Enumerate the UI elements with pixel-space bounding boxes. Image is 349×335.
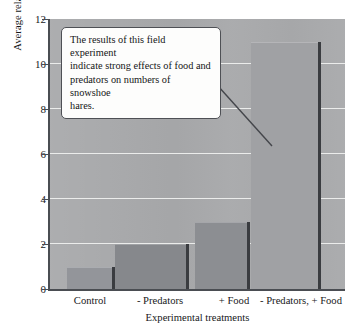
bar-minus-predators-plus-food — [251, 42, 318, 290]
x-axis-title: Experimental treatments — [48, 312, 347, 323]
bar-top-highlight — [115, 244, 186, 245]
bar-shadow-edge — [318, 42, 321, 290]
x-tick-label-minus-predators-plus-food: - Predators, + Food — [255, 294, 347, 308]
bar-chart-figure: Average relative hare density 12 10 8 6 … — [0, 0, 349, 335]
callout-line-1: The results of this field experiment — [70, 33, 213, 59]
x-axis-tick-labels: Control - Predators + Food - Predators, … — [48, 294, 347, 310]
annotation-callout: The results of this field experiment ind… — [61, 27, 221, 119]
bar-minus-predators — [115, 244, 186, 289]
callout-line-4: hares. — [70, 99, 213, 112]
bar-shadow-edge — [247, 222, 250, 290]
callout-line-2: indicate strong effects of food and — [70, 59, 213, 72]
x-tick-label-minus-predators: - Predators — [114, 294, 206, 308]
x-axis-line — [48, 289, 345, 291]
bar-top-highlight — [251, 42, 318, 43]
bar-plus-food — [195, 222, 247, 290]
bar-top-highlight — [67, 267, 112, 268]
bar-shadow-edge — [186, 244, 189, 289]
bar-top-highlight — [195, 222, 247, 223]
callout-line-3: predators on numbers of snowshoe — [70, 73, 213, 99]
bar-control — [67, 267, 112, 290]
